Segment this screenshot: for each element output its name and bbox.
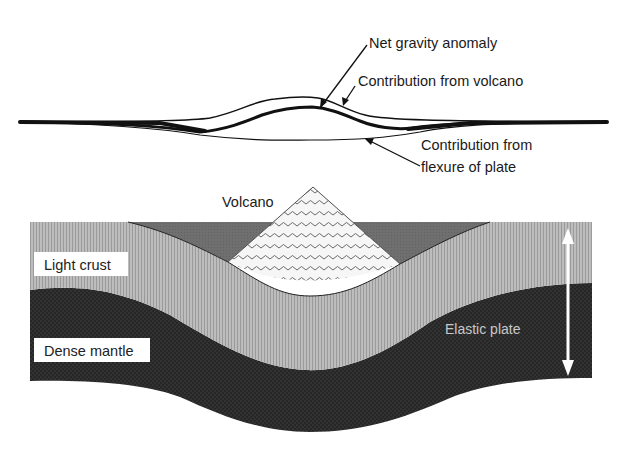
volcano-contribution-curve: [20, 97, 600, 122]
elastic-plate-label: Elastic plate: [445, 321, 521, 337]
flexure-contribution-arrowhead: [365, 138, 374, 145]
flexure-contribution-label-line1: Contribution from: [421, 137, 532, 153]
dense-mantle-label: Dense mantle: [44, 343, 133, 359]
net-anomaly-curve: [20, 107, 600, 132]
gravity-profile: Net gravity anomaly Contribution from vo…: [20, 35, 607, 175]
light-crust-label: Light crust: [44, 257, 111, 273]
baseline-right: [408, 122, 607, 129]
volcano-contribution-arrowhead: [342, 97, 349, 106]
volcano-label: Volcano: [222, 194, 274, 210]
volcano-contribution-label: Contribution from volcano: [358, 73, 523, 89]
diagram-canvas: Net gravity anomaly Contribution from vo…: [0, 0, 618, 456]
net-anomaly-label: Net gravity anomaly: [369, 35, 498, 51]
flexure-contribution-label-line2: flexure of plate: [421, 159, 516, 175]
flexure-contribution-leader: [368, 140, 420, 166]
cross-section: Volcano Light crust Dense mantle Elastic…: [30, 187, 592, 432]
